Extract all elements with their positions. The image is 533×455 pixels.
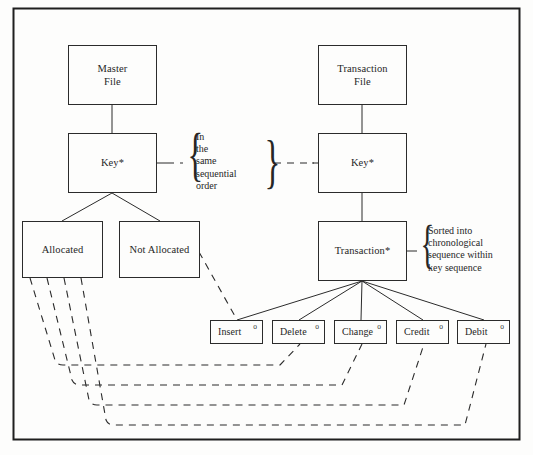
degree-marker-icon: o xyxy=(253,323,257,331)
link-transaction-credit xyxy=(362,281,423,320)
node-leaf-change-label: Change xyxy=(342,326,373,339)
dashed-allocated-debit xyxy=(81,278,486,425)
link-key-allocated xyxy=(62,193,112,221)
node-leaf-debit-label: Debit xyxy=(465,326,488,339)
node-leaf-change[interactable]: Change o xyxy=(334,320,387,344)
node-leaf-credit-label: Credit xyxy=(404,326,430,339)
node-transaction-label: Transaction* xyxy=(335,244,391,257)
annotation-middle-brace: In the same sequential order xyxy=(196,131,266,192)
link-transaction-change xyxy=(361,281,362,320)
node-leaf-insert-label: Insert xyxy=(218,326,241,339)
node-leaf-delete-label: Delete xyxy=(280,326,307,339)
node-transaction[interactable]: Transaction* xyxy=(318,221,407,281)
node-leaf-credit[interactable]: Credit o xyxy=(396,320,449,344)
link-key-notallocated xyxy=(112,193,160,221)
node-leaf-debit[interactable]: Debit o xyxy=(457,320,510,344)
node-not-allocated-label: Not Allocated xyxy=(130,243,190,256)
dashed-notallocated-insert xyxy=(199,252,236,318)
node-transaction-file-label: Transaction File xyxy=(337,62,387,89)
diagram-canvas: Master File Key* Allocated Not Allocated… xyxy=(0,0,533,455)
degree-marker-icon: o xyxy=(377,323,381,331)
node-transaction-key-label: Key* xyxy=(351,156,374,169)
link-transaction-insert xyxy=(237,281,362,320)
annotation-right-brace: Sorted into chronological sequence withi… xyxy=(428,225,528,274)
right-brace-icon: } xyxy=(264,131,280,191)
node-transaction-file[interactable]: Transaction File xyxy=(318,45,407,105)
node-not-allocated[interactable]: Not Allocated xyxy=(119,221,200,278)
degree-marker-icon: o xyxy=(315,323,319,331)
node-master-file-label: Master File xyxy=(98,62,128,89)
node-leaf-delete[interactable]: Delete o xyxy=(272,320,325,344)
node-master-file[interactable]: Master File xyxy=(68,45,157,105)
link-transaction-debit xyxy=(362,281,484,320)
link-transaction-delete xyxy=(299,281,362,320)
degree-marker-icon: o xyxy=(439,323,443,331)
node-allocated-label: Allocated xyxy=(42,243,84,256)
figure-caption xyxy=(0,443,533,455)
node-master-key-label: Key* xyxy=(101,156,124,169)
node-leaf-insert[interactable]: Insert o xyxy=(210,320,263,344)
node-master-key[interactable]: Key* xyxy=(68,133,157,193)
degree-marker-icon: o xyxy=(500,323,504,331)
node-allocated[interactable]: Allocated xyxy=(22,221,103,278)
node-transaction-key[interactable]: Key* xyxy=(318,133,407,193)
